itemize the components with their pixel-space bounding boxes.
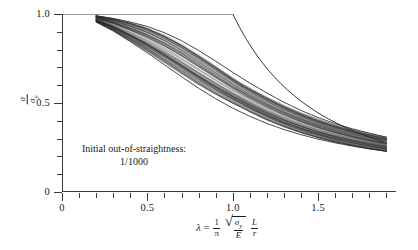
y-tick-0.7 — [57, 67, 62, 68]
radical-icon: √ — [225, 215, 233, 228]
x-tick-label-0.5: 0.5 — [127, 203, 167, 213]
x-tick-1.9 — [386, 193, 387, 198]
sigma-y-symbol: σy — [28, 95, 40, 105]
x-tick-1.3 — [284, 193, 285, 198]
x-tick-1.4 — [301, 193, 302, 198]
figure-root: 00.51.0 00.51.01.5 σ σy λ = 1 π √ σy E L… — [0, 0, 418, 250]
equals-sign: = — [204, 221, 210, 233]
x-tick-0.5 — [147, 193, 148, 201]
x-tick-1.7 — [352, 193, 353, 198]
x-tick-label-0: 0 — [42, 203, 82, 213]
y-tick-0.2 — [57, 156, 62, 157]
x-tick-label-1.5: 1.5 — [298, 203, 338, 213]
sigma-over-sigma-y: σ σy — [18, 95, 41, 105]
x-tick-1.1 — [250, 193, 251, 198]
sqrt-sigma-y-over-E: √ σy E — [225, 216, 247, 241]
annotation-out-of-straightness: Initial out-of-straightness: 1/1000 — [66, 143, 202, 168]
y-axis-title: σ σy — [18, 84, 41, 114]
x-tick-0.7 — [182, 193, 183, 198]
column-curve-70 — [96, 18, 386, 139]
x-tick-1 — [233, 193, 234, 201]
x-tick-1.5 — [318, 193, 319, 201]
E-denominator: E — [234, 231, 244, 240]
y-tick-0.5 — [54, 103, 62, 104]
x-tick-1.8 — [369, 193, 370, 198]
y-tick-0.6 — [57, 85, 62, 86]
x-tick-label-1.0: 1.0 — [213, 203, 253, 213]
lambda-symbol: λ — [196, 221, 201, 233]
x-tick-0.1 — [79, 193, 80, 198]
y-tick-0.1 — [57, 174, 62, 175]
L-over-r: L r — [251, 218, 258, 238]
column-curve-84 — [96, 17, 386, 143]
x-tick-0.8 — [199, 193, 200, 198]
y-tick-0 — [54, 192, 62, 193]
x-tick-0 — [62, 193, 63, 201]
x-tick-0.6 — [164, 193, 165, 198]
y-axis-line — [62, 14, 63, 192]
y-tick-0.8 — [57, 50, 62, 51]
annotation-line-1: Initial out-of-straightness: — [66, 143, 202, 156]
x-tick-1.6 — [335, 193, 336, 198]
y-tick-1 — [54, 14, 62, 15]
column-curve-100 — [96, 18, 386, 140]
x-tick-0.4 — [130, 193, 131, 198]
x-tick-1.2 — [267, 193, 268, 198]
y-tick-label-1.0: 1.0 — [4, 9, 50, 19]
x-axis-line — [62, 191, 396, 192]
x-tick-0.3 — [113, 193, 114, 198]
y-tick-0.9 — [57, 32, 62, 33]
one-over-pi: 1 π — [213, 218, 220, 238]
x-tick-0.9 — [216, 193, 217, 198]
annotation-line-2: 1/1000 — [66, 156, 202, 169]
y-tick-0.4 — [57, 121, 62, 122]
x-tick-0.2 — [96, 193, 97, 198]
y-tick-label-0: 0 — [4, 187, 50, 197]
y-tick-0.3 — [57, 139, 62, 140]
x-axis-title: λ = 1 π √ σy E L r — [196, 216, 259, 241]
